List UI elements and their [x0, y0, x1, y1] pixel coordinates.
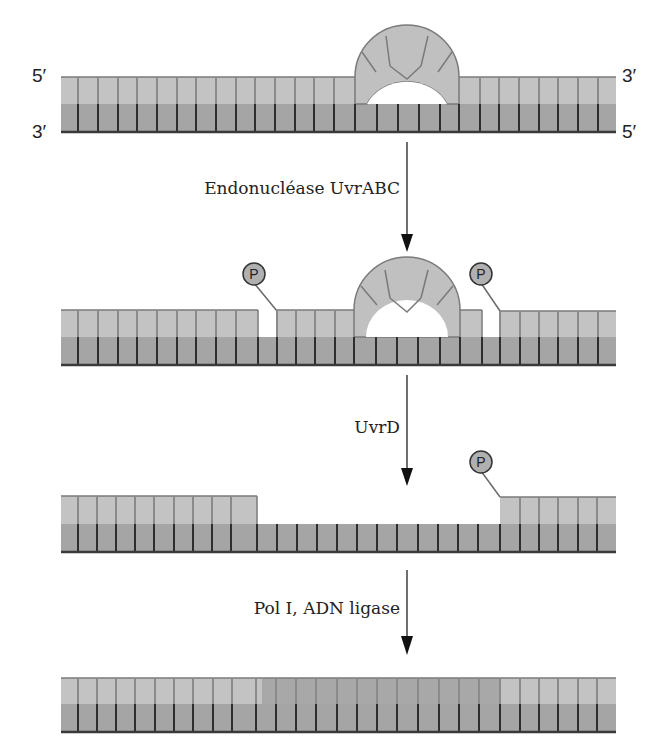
nucleotide-excision-repair-diagram: 5′ 3′ 3′ 5′	[0, 0, 665, 756]
base-pair-ticks	[78, 678, 597, 732]
phosphate-label: P	[476, 454, 485, 470]
phosphate-label: P	[476, 266, 485, 282]
step-label-uvrd: UvrD	[354, 417, 400, 437]
step-arrow-1: Endonucléase UvrABC	[204, 142, 413, 252]
damage-bulge	[354, 257, 460, 337]
top-strand-repaired-patch	[262, 678, 500, 704]
damage-bulge	[355, 25, 459, 104]
step-arrow-2: UvrD	[354, 375, 413, 486]
phosphate-label: P	[249, 266, 258, 282]
stage-repaired-dna	[61, 678, 616, 732]
phosphate-group-right: P	[470, 263, 500, 311]
stage-damaged-dna: 5′ 3′ 3′ 5′	[32, 25, 637, 142]
label-3prime-bottom-left: 3′	[32, 121, 47, 142]
step-arrow-3: Pol I, ADN ligase	[254, 570, 413, 655]
top-strand-left	[61, 496, 257, 524]
top-strand-left	[61, 310, 258, 337]
stage-excised-gap: P	[61, 451, 616, 552]
step-label-pol1-ligase: Pol I, ADN ligase	[254, 598, 400, 618]
step-label-uvrabc: Endonucléase UvrABC	[204, 178, 400, 198]
top-strand-right	[459, 77, 616, 104]
top-strand-left	[61, 77, 355, 104]
label-5prime-bottom-right: 5′	[622, 121, 637, 142]
stage-incised-dna: P P	[61, 257, 616, 365]
label-5prime-top-left: 5′	[32, 65, 47, 86]
phosphate-group-left: P	[243, 263, 277, 311]
bottom-strand	[61, 104, 616, 132]
label-3prime-top-right: 3′	[622, 65, 637, 86]
phosphate-group-right: P	[470, 451, 500, 497]
